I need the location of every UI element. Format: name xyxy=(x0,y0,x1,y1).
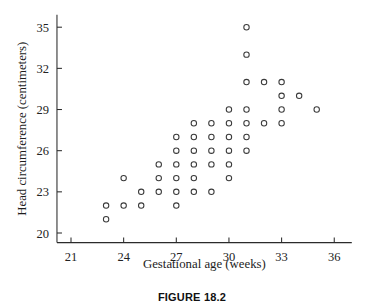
data-point xyxy=(139,189,144,194)
y-tick-label: 35 xyxy=(36,21,49,35)
x-tick-label: 24 xyxy=(117,250,130,264)
data-point xyxy=(279,107,284,112)
x-tick-label: 33 xyxy=(275,250,288,264)
data-point xyxy=(156,162,161,167)
data-point xyxy=(174,203,179,208)
data-point xyxy=(261,79,266,84)
data-point xyxy=(209,121,214,126)
scatter-plot: 202326293235 212427303336 Gestational ag… xyxy=(0,0,384,275)
data-point xyxy=(244,107,249,112)
y-axis-label: Head circumference (centimeters) xyxy=(15,42,29,216)
data-point xyxy=(103,203,108,208)
y-tick-label: 20 xyxy=(36,227,49,241)
data-point xyxy=(209,189,214,194)
figure-caption: FIGURE 18.2 xyxy=(0,291,384,303)
data-point xyxy=(191,148,196,153)
data-point xyxy=(296,93,301,98)
data-point xyxy=(191,189,196,194)
data-point xyxy=(244,79,249,84)
data-point xyxy=(174,189,179,194)
data-point xyxy=(244,134,249,139)
data-point xyxy=(174,134,179,139)
data-point xyxy=(279,93,284,98)
x-tick-label: 36 xyxy=(328,250,341,264)
data-point xyxy=(261,121,266,126)
figure-container: 202326293235 212427303336 Gestational ag… xyxy=(0,0,384,303)
data-point xyxy=(209,134,214,139)
data-point xyxy=(226,121,231,126)
data-point xyxy=(209,162,214,167)
data-point xyxy=(244,25,249,30)
data-point xyxy=(191,175,196,180)
data-point xyxy=(174,175,179,180)
y-tick-label: 26 xyxy=(36,144,49,158)
data-point xyxy=(226,148,231,153)
x-tick-label: 21 xyxy=(65,250,78,264)
y-tick-label: 29 xyxy=(36,103,49,117)
data-point xyxy=(174,162,179,167)
data-point xyxy=(279,121,284,126)
data-point xyxy=(226,107,231,112)
data-point xyxy=(314,107,319,112)
y-tick-label: 32 xyxy=(36,62,49,76)
data-point xyxy=(156,175,161,180)
data-point xyxy=(121,175,126,180)
data-point xyxy=(279,79,284,84)
axes-group xyxy=(57,15,352,243)
data-point xyxy=(191,134,196,139)
data-point xyxy=(244,148,249,153)
data-point xyxy=(191,121,196,126)
data-point xyxy=(174,148,179,153)
data-points-group xyxy=(103,25,319,222)
data-point xyxy=(103,217,108,222)
data-point xyxy=(244,121,249,126)
data-point xyxy=(156,189,161,194)
y-tick-group: 202326293235 xyxy=(36,21,62,241)
data-point xyxy=(209,148,214,153)
y-tick-label: 23 xyxy=(36,185,49,199)
data-point xyxy=(244,52,249,57)
data-point xyxy=(226,134,231,139)
data-point xyxy=(226,175,231,180)
data-point xyxy=(191,162,196,167)
data-point xyxy=(226,162,231,167)
data-point xyxy=(139,203,144,208)
data-point xyxy=(121,203,126,208)
x-axis-label: Gestational age (weeks) xyxy=(143,257,266,271)
